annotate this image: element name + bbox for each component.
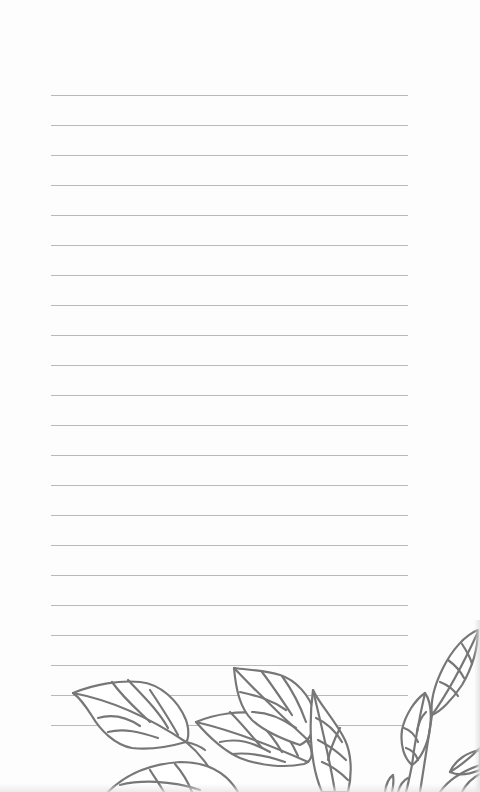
ruled-line xyxy=(51,95,408,96)
ruled-line xyxy=(51,275,408,276)
ruled-line xyxy=(51,725,408,726)
ruled-line xyxy=(51,545,408,546)
ruled-line xyxy=(51,245,408,246)
ruled-line xyxy=(51,365,408,366)
ruled-line xyxy=(51,395,408,396)
ruled-line xyxy=(51,485,408,486)
page-edge-right xyxy=(474,620,480,792)
ruled-line xyxy=(51,155,408,156)
ruled-line xyxy=(51,665,408,666)
ruled-lines xyxy=(0,0,480,792)
ruled-line xyxy=(51,215,408,216)
ruled-line xyxy=(51,605,408,606)
ruled-line xyxy=(51,305,408,306)
notepaper xyxy=(0,0,480,792)
ruled-line xyxy=(51,695,408,696)
ruled-line xyxy=(51,515,408,516)
ruled-line xyxy=(51,425,408,426)
ruled-line xyxy=(51,575,408,576)
ruled-line xyxy=(51,335,408,336)
ruled-line xyxy=(51,125,408,126)
page-edge-bottom xyxy=(0,784,480,792)
ruled-line xyxy=(51,455,408,456)
ruled-line xyxy=(51,635,408,636)
ruled-line xyxy=(51,185,408,186)
